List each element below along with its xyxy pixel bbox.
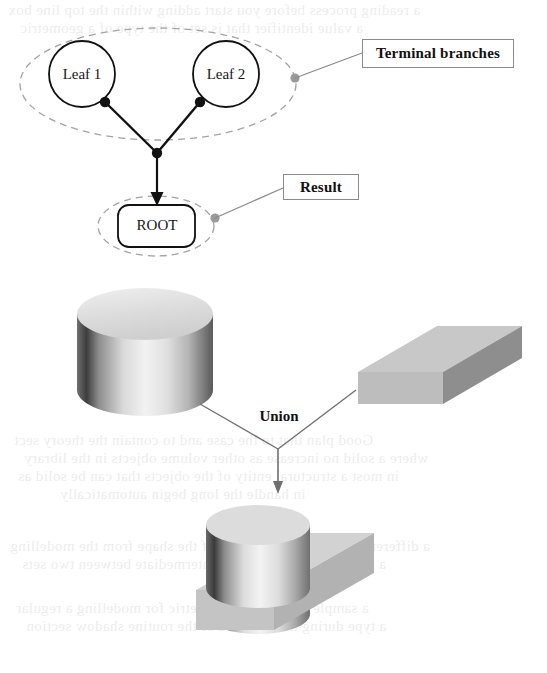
leaf-node-2-label: Leaf 2 [196, 63, 256, 85]
union-result-solid[interactable] [196, 505, 374, 634]
figure-canvas: a reading process before you start addin… [0, 0, 547, 673]
block-front-face [358, 372, 443, 404]
root-node-label: ROOT [124, 214, 190, 236]
branch-edge-right [157, 102, 200, 153]
union-arrow-head [273, 481, 283, 494]
leaf-node-1-label: Leaf 1 [52, 63, 112, 85]
operand-cylinder[interactable] [77, 288, 213, 416]
union-illustration [77, 288, 522, 634]
terminal-branches-callout-line [295, 53, 362, 78]
cylinder-top-face [77, 288, 213, 340]
result-cylinder-top-face [206, 505, 310, 545]
root-arrow-head [151, 192, 164, 206]
terminal-branches-callout-box[interactable]: Terminal branches [362, 39, 514, 68]
branch-dot-right [195, 97, 205, 107]
branch-edge-left [105, 102, 157, 153]
result-callout-line [215, 188, 283, 218]
operand-block[interactable] [358, 326, 522, 404]
union-operation-label: Union [234, 405, 324, 427]
branch-dot-left [100, 97, 110, 107]
figure-graphics [0, 0, 547, 673]
result-callout-box[interactable]: Result [283, 174, 359, 200]
